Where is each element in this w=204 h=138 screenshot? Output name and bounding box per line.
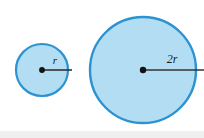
small-circle-group: r (16, 44, 72, 96)
large-circle-radius-label: 2r (167, 52, 178, 66)
large-circle-center-dot (140, 67, 146, 73)
circles-diagram: r 2r (0, 0, 204, 138)
small-circle-center-dot (39, 67, 45, 73)
large-circle-group: 2r (90, 17, 204, 123)
geometry-figure: r 2r (0, 0, 204, 138)
bottom-band (0, 131, 204, 138)
small-circle-radius-label: r (53, 54, 58, 66)
